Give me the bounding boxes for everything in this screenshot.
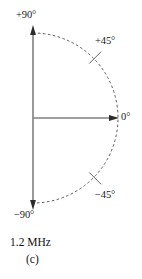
caption-frequency: 1.2 MHz [10,237,51,249]
tick-plus-45 [89,52,101,64]
figure-caption-block: 1.2 MHz (c) [0,232,142,279]
polar-beam-pattern-figure: +90° +45° 0° −45° −90° 1.2 MHz (c) [0,0,142,279]
angle-label-plus-90: +90° [16,10,36,21]
vertical-axis-top-arrowhead [30,25,36,35]
caption-panel-letter: (c) [26,254,39,266]
tick-minus-45 [89,173,101,185]
angle-label-minus-45: −45° [95,190,115,201]
horizontal-axis-arrowhead [109,115,119,121]
angle-label-minus-90: −90° [14,210,34,221]
angle-label-plus-45: +45° [95,36,115,47]
angle-label-zero: 0° [121,112,130,123]
